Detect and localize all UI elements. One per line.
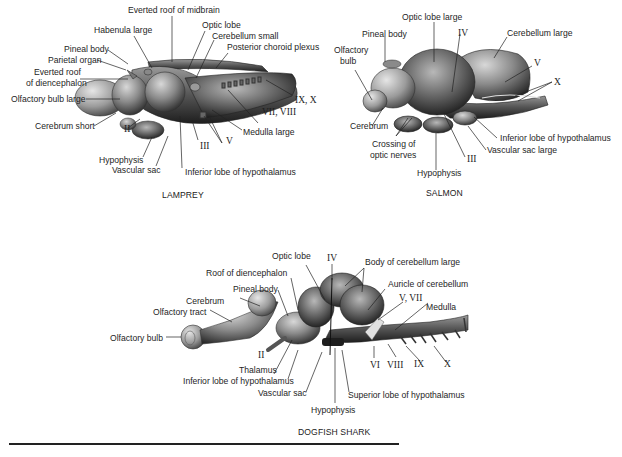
label-everted-roof-diencephalon-2: of diencephalon [26, 78, 87, 88]
label-olfactory-tract: Olfactory tract [153, 307, 206, 317]
label-habenula: Habenula large [94, 25, 152, 35]
label-parietal-organ: Parietal organ [48, 55, 102, 65]
label-hypophysis: Hypophysis [311, 405, 355, 415]
label-inferior-lobe-hypothalamus: Inferior lobe of hypothalamus [183, 376, 294, 386]
label-olfactory-bulb: Olfactory bulb [110, 333, 163, 343]
label-nerve-vi: VI [370, 360, 380, 370]
label-optic-lobe: Optic lobe [272, 251, 311, 261]
label-vascular-sac-large: Vascular sac large [487, 145, 557, 155]
label-nerve-iv: IV [458, 28, 468, 38]
label-vascular-sac: Vascular sac [112, 165, 161, 175]
label-nerve-ix-x: IX, X [295, 95, 317, 105]
label-cerebrum: Cerebrum [350, 121, 388, 131]
caption-dogfish-shark: DOGFISH SHARK [298, 427, 370, 437]
caption-salmon: SALMON [426, 188, 463, 198]
label-nerve-v-vii: V, VII [399, 293, 422, 303]
label-nerve-iii: III [467, 154, 477, 164]
label-everted-roof-diencephalon-1: Everted roof [34, 67, 81, 77]
label-cerebrum: Cerebrum short [35, 121, 95, 131]
label-optic-lobe-large: Optic lobe large [402, 12, 462, 22]
label-inferior-lobe-hypothalamus: Inferior lobe of hypothalamus [500, 133, 611, 143]
bottom-rule [9, 443, 399, 445]
label-body-of-cerebellum: Body of cerebellum large [365, 257, 460, 267]
label-auricle-of-cerebellum: Auricle of cerebellum [388, 279, 468, 289]
label-vascular-sac: Vascular sac [258, 388, 307, 398]
brain-diagrams-canvas [0, 0, 622, 457]
label-cerebellum-large: Cerebellum large [507, 28, 572, 38]
label-nerve-vii-viii: VII, VIII [262, 107, 296, 117]
label-hypophysis: Hypophysis [417, 168, 461, 178]
label-medulla: Medulla [426, 302, 456, 312]
label-nerve-iii: III [200, 141, 210, 151]
label-pineal-body: Pineal body [64, 44, 109, 54]
label-roof-of-diencephalon: Roof of diencephalon [206, 268, 287, 278]
label-superior-lobe-hypothalamus: Superior lobe of hypothalamus [348, 390, 465, 400]
label-olfactory-1: Olfactory [334, 45, 368, 55]
label-cerebrum: Cerebrum [186, 296, 224, 306]
label-nerve-x: X [554, 77, 561, 87]
label-medulla: Medulla large [243, 127, 295, 137]
label-crossing-2: optic nerves [370, 150, 416, 160]
label-thalamus: Thalamus [239, 365, 277, 375]
label-nerve-x: X [444, 359, 451, 369]
label-posterior-choroid-plexus: Posterior choroid plexus [227, 42, 319, 52]
label-nerve-iv: IV [327, 253, 337, 263]
salmon-brain-drawing [363, 49, 548, 133]
label-pineal-body: Pineal body [233, 284, 278, 294]
label-crossing-1: Crossing of [372, 139, 415, 149]
label-nerve-ii: II [258, 350, 264, 360]
label-hypophysis: Hypophysis [99, 155, 143, 165]
label-pineal-body: Pineal body [362, 29, 407, 39]
label-nerve-ix: IX [414, 359, 424, 369]
label-everted-roof-midbrain: Everted roof of midbrain [128, 5, 220, 15]
label-nerve-viii: VIII [387, 360, 403, 370]
label-nerve-v: V [534, 58, 541, 68]
label-olfactory-bulb: Olfactory bulb large [11, 94, 86, 104]
caption-lamprey: LAMPREY [162, 190, 204, 200]
label-nerve-v: V [226, 136, 233, 146]
label-optic-lobe: Optic lobe [202, 20, 241, 30]
label-cerebellum: Cerebellum small [212, 31, 278, 41]
label-nerve-ii: II [124, 124, 130, 134]
label-olfactory-2: bulb [340, 56, 356, 66]
label-inferior-lobe-hypothalamus: Inferior lobe of hypothalamus [185, 167, 296, 177]
